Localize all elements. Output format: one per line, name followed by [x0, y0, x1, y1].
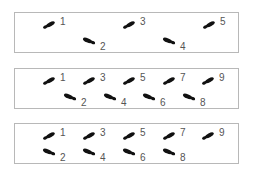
footprint-icon — [80, 132, 98, 140]
footprint-icon — [200, 21, 218, 29]
footprint-icon — [80, 77, 98, 85]
footprint-icon — [120, 148, 138, 156]
footprint-label: 2 — [60, 153, 66, 163]
footprint-label: 5 — [140, 128, 146, 138]
footprint-label: 2 — [100, 42, 106, 52]
footprint-icon — [160, 77, 178, 85]
footprint-icon — [80, 148, 98, 156]
footprint-label: 6 — [140, 153, 146, 163]
footprint-icon — [101, 93, 119, 101]
footprint-label: 3 — [100, 73, 106, 83]
footprint-icon — [120, 77, 138, 85]
footprint-icon — [140, 93, 158, 101]
footprint-label: 3 — [100, 128, 106, 138]
footprint-icon — [40, 132, 58, 140]
footprint-icon — [160, 132, 178, 140]
footprint-icon — [40, 21, 58, 29]
footprint-label: 1 — [60, 73, 66, 83]
footprint-label: 8 — [200, 98, 206, 108]
panel-3 — [14, 123, 239, 164]
footprint-icon — [160, 37, 178, 45]
footprint-icon — [40, 77, 58, 85]
footprint-icon — [180, 93, 198, 101]
footprint-label: 4 — [121, 98, 127, 108]
footprint-icon — [40, 148, 58, 156]
footprint-label: 1 — [60, 17, 66, 27]
footprint-label: 4 — [180, 42, 186, 52]
footprint-label: 2 — [81, 98, 87, 108]
footprint-icon — [120, 21, 138, 29]
footprint-label: 4 — [100, 153, 106, 163]
footprint-label: 9 — [219, 128, 225, 138]
footprint-label: 6 — [160, 98, 166, 108]
footprint-icon — [199, 132, 217, 140]
footprint-icon — [61, 93, 79, 101]
footprint-label: 9 — [219, 73, 225, 83]
footprint-icon — [160, 148, 178, 156]
footprint-icon — [80, 37, 98, 45]
footprint-label: 5 — [140, 73, 146, 83]
footprint-icon — [120, 132, 138, 140]
footprint-label: 8 — [180, 153, 186, 163]
footprint-label: 7 — [180, 128, 186, 138]
footprint-label: 7 — [180, 73, 186, 83]
footprint-icon — [199, 77, 217, 85]
panel-1 — [14, 12, 239, 53]
footprint-label: 3 — [140, 17, 146, 27]
footprint-label: 5 — [220, 17, 226, 27]
footprint-label: 1 — [60, 128, 66, 138]
